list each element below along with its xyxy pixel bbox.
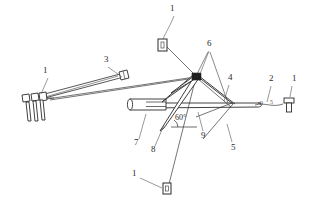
bottom-anchor-block-inner: [166, 186, 169, 191]
small-mark-5: 5: [270, 99, 273, 105]
guy-cable-lower-cross: [196, 103, 232, 117]
technical-line-drawing: [0, 0, 313, 210]
right-anchor-peg-head: [284, 98, 294, 103]
guy-cable-right-cross: [203, 104, 233, 139]
tie-rod-3-upper: [41, 74, 120, 95]
callout-label-8: 8: [151, 145, 156, 154]
callout-label-2: 2: [269, 74, 274, 83]
stake-prong-1: [26, 102, 31, 121]
leader-1-top: [163, 16, 174, 39]
top-anchor-block: [158, 39, 167, 51]
guy-cable-top: [167, 47, 196, 76]
leader-7: [139, 114, 146, 139]
callout-label-3: 3: [104, 55, 109, 64]
angle-label-60deg: 60°: [175, 113, 186, 122]
tie-rod-3-lower: [41, 78, 120, 99]
collar-3: [119, 70, 129, 80]
sleeve-7-end-cap: [127, 99, 132, 110]
leader-5: [227, 124, 232, 142]
clamp-block-b: [31, 93, 39, 101]
callout-label-1-bottom: 1: [132, 169, 137, 178]
apex-node-6-body: [192, 73, 201, 80]
sleeve-7: [127, 99, 166, 110]
callout-label-1-left: 1: [43, 66, 48, 75]
top-anchor-block-inner: [161, 42, 164, 48]
bottom-anchor-block: [163, 183, 171, 194]
right-anchor-peg: [284, 98, 294, 112]
callout-label-1-top: 1: [170, 4, 175, 13]
leader-1-bottom: [140, 178, 162, 188]
callout-label-4: 4: [228, 73, 233, 82]
guy-cable-left-strand: [50, 78, 195, 100]
leader-6: [200, 51, 209, 74]
callout-label-1-right: 1: [292, 74, 297, 83]
callout-label-9: 9: [201, 131, 206, 140]
patent-figure: 1 3 1 6 4 2 1 7 8 9 5 1 9 5 60°: [0, 0, 313, 210]
apex-node-6-leader-b: [210, 52, 228, 103]
clamp-block-a: [22, 94, 30, 102]
left-stake-assembly: [22, 92, 54, 121]
leader-8: [155, 125, 164, 146]
callout-label-5: 5: [231, 143, 236, 152]
stake-prong-3: [40, 100, 45, 120]
stake-prong-2: [33, 101, 38, 121]
guy-cable-group: [47, 47, 283, 188]
sleeve-7-body: [130, 99, 166, 110]
small-mark-9: 9: [260, 100, 263, 106]
right-anchor-peg-shaft: [287, 103, 292, 112]
leader-1-right: [290, 86, 292, 97]
apex-node-6-leader-a: [197, 52, 208, 74]
callout-label-6: 6: [207, 39, 212, 48]
callout-label-7: 7: [134, 138, 139, 147]
leader-1-left: [41, 78, 48, 94]
